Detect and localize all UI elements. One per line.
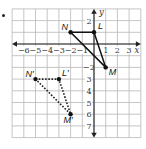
- vertex-label: N: [62, 22, 69, 32]
- x-tick-label: −6: [18, 46, 30, 55]
- x-tick-label: 2: [115, 46, 120, 55]
- vertex-label: L′: [62, 68, 69, 78]
- vertex-label: M: [109, 67, 117, 77]
- vertex-point: [57, 77, 61, 81]
- coordinate-plane: −6−5−4−3−2−1123x2−234567yNLMN′L′M′: [0, 0, 146, 149]
- x-axis-left-arrow-icon: [12, 41, 17, 47]
- vertex-point: [33, 77, 37, 81]
- x-tick-label: −4: [41, 46, 53, 55]
- vertex-label: L: [98, 21, 103, 31]
- y-axis-down-arrow-icon: [91, 133, 97, 138]
- y-tick-label: 3: [86, 75, 91, 84]
- triangle-NLM-prime: [36, 79, 71, 114]
- y-axis-label: y: [98, 7, 104, 17]
- y-tick-label: 7: [86, 122, 91, 131]
- y-tick-label: 5: [86, 99, 91, 108]
- x-axis-label: x: [134, 45, 139, 55]
- vertex-point: [92, 30, 96, 34]
- y-tick-label: 4: [86, 87, 91, 96]
- vertex-point: [104, 65, 108, 69]
- vertex-label: M′: [64, 115, 73, 125]
- x-tick-label: 1: [103, 46, 108, 55]
- y-tick-label: 2: [86, 17, 91, 26]
- x-tick-label: −3: [53, 46, 65, 55]
- x-tick-label: −2: [65, 46, 77, 55]
- y-tick-label: 6: [86, 110, 91, 119]
- vertex-label: N′: [26, 69, 34, 79]
- vertex-point: [68, 30, 72, 34]
- y-tick-label: −2: [83, 63, 95, 72]
- x-tick-label: −5: [30, 46, 42, 55]
- y-axis-up-arrow-icon: [91, 9, 97, 14]
- x-tick-label: 3: [127, 46, 132, 55]
